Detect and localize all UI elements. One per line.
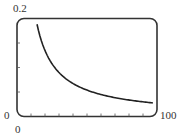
data-curve [37, 24, 153, 103]
plot-area [0, 0, 182, 135]
viewing-window-frame [17, 19, 157, 117]
axis-ticks [17, 43, 143, 117]
